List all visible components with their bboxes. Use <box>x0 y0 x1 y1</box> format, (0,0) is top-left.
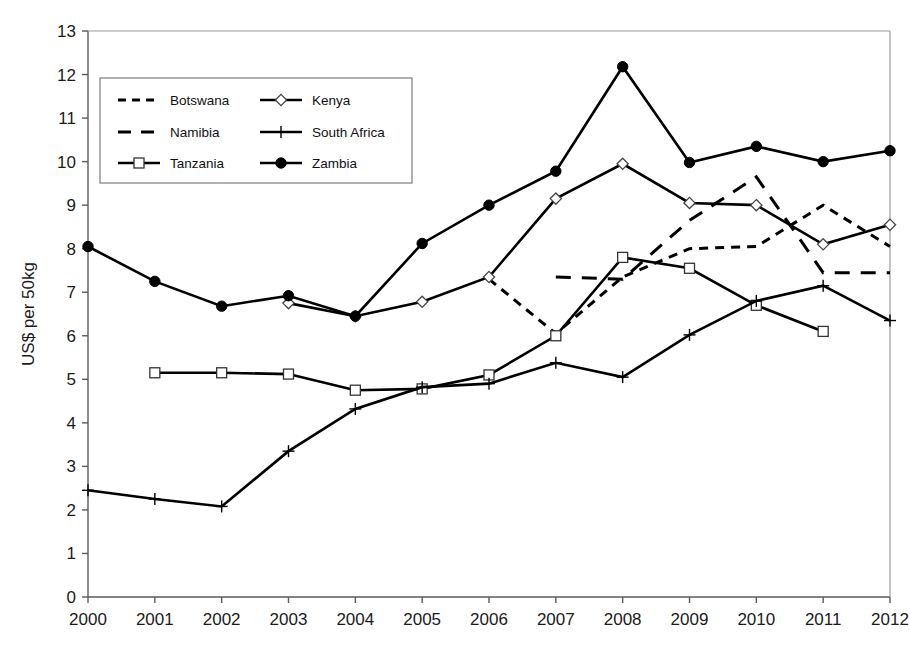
legend-label: Kenya <box>312 93 351 108</box>
legend-label: Tanzania <box>170 156 225 171</box>
y-axis-tick-label: 1 <box>67 544 76 563</box>
legend-swatch-marker <box>134 158 144 168</box>
x-axis-tick-label: 2007 <box>537 610 575 629</box>
x-axis-tick-label: 2010 <box>737 610 775 629</box>
data-point-marker <box>751 141 761 151</box>
legend: BotswanaKenyaNamibiaSouth AfricaTanzania… <box>100 78 412 183</box>
y-axis-tick-label: 8 <box>67 240 76 259</box>
x-axis-tick-label: 2011 <box>805 610 842 629</box>
data-point-marker <box>150 368 160 378</box>
y-axis-tick-label: 5 <box>67 370 76 389</box>
data-point-marker <box>83 241 93 251</box>
data-point-marker <box>284 369 294 379</box>
x-axis-tick-label: 2006 <box>470 610 508 629</box>
data-point-marker <box>551 166 561 176</box>
x-axis-tick-label: 2009 <box>671 610 709 629</box>
legend-label: South Africa <box>312 125 385 140</box>
x-axis-tick-label: 2001 <box>136 610 174 629</box>
line-chart: 0123456789101112132000200120022003200420… <box>0 0 910 648</box>
y-axis-tick-label: 12 <box>57 66 76 85</box>
data-point-marker <box>617 62 627 72</box>
data-point-marker <box>551 331 561 341</box>
data-point-marker <box>350 311 360 321</box>
y-axis-tick-label: 13 <box>57 22 76 41</box>
data-point-marker <box>283 291 293 301</box>
data-point-marker <box>818 156 828 166</box>
data-point-marker <box>818 326 828 336</box>
legend-swatch-marker <box>276 158 286 168</box>
data-point-marker <box>350 385 360 395</box>
x-axis-tick-label: 2005 <box>403 610 441 629</box>
y-axis-title: US$ per 50kg <box>19 262 38 366</box>
y-axis-tick-label: 0 <box>67 588 76 607</box>
x-axis-tick-label: 2004 <box>336 610 374 629</box>
y-axis-tick-label: 4 <box>67 414 76 433</box>
y-axis-tick-label: 2 <box>67 501 76 520</box>
legend-label: Namibia <box>170 125 220 140</box>
x-axis-tick-label: 2003 <box>270 610 308 629</box>
legend-label: Zambia <box>312 156 358 171</box>
x-axis-tick-label: 2000 <box>69 610 107 629</box>
y-axis-tick-label: 10 <box>57 153 76 172</box>
x-axis-tick-label: 2008 <box>604 610 642 629</box>
y-axis-tick-label: 9 <box>67 196 76 215</box>
y-axis-tick-label: 11 <box>58 109 76 128</box>
data-point-marker <box>885 146 895 156</box>
legend-label: Botswana <box>170 93 230 108</box>
data-point-marker <box>150 276 160 286</box>
chart-canvas: 0123456789101112132000200120022003200420… <box>0 0 910 648</box>
y-axis-tick-label: 7 <box>67 283 76 302</box>
x-axis-tick-label: 2002 <box>203 610 241 629</box>
data-point-marker <box>618 252 628 262</box>
data-point-marker <box>684 157 694 167</box>
data-point-marker <box>417 238 427 248</box>
data-point-marker <box>484 200 494 210</box>
y-axis-tick-label: 3 <box>67 457 76 476</box>
x-axis-tick-label: 2012 <box>871 610 909 629</box>
y-axis-tick-label: 6 <box>67 327 76 346</box>
data-point-marker <box>685 263 695 273</box>
data-point-marker <box>216 301 226 311</box>
data-point-marker <box>217 368 227 378</box>
